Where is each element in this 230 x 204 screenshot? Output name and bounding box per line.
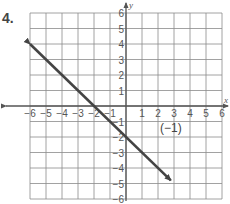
x-tick-label: 5 [203,108,209,119]
y-tick-label: 6 [118,8,124,19]
y-tick-label: 4 [118,39,124,50]
x-tick-label: 3 [171,108,177,119]
y-tick-label: −3 [113,148,125,159]
x-tick-label: 2 [155,108,161,119]
y-tick-label: 1 [118,86,124,97]
y-axis-label: y [128,0,133,10]
y-tick-label: −4 [113,163,125,174]
x-tick-label: 4 [187,108,193,119]
x-tick-label: 1 [139,108,145,119]
x-axis-label: x [223,95,228,105]
x-tick-label: −5 [40,108,52,119]
x-tick-label: −6 [24,108,36,119]
y-tick-label: −6 [113,194,125,204]
y-tick-label: 2 [118,70,124,81]
y-tick-label: 3 [118,55,124,66]
slope-annotation: (−1) [160,121,182,135]
x-tick-label: −4 [56,108,68,119]
coordinate-graph: −6−5−4−3−2−1123456654321−1−2−3−4−5−6 x y… [0,0,230,204]
x-tick-label: 6 [219,108,225,119]
y-tick-label: 5 [118,24,124,35]
x-tick-label: −3 [72,108,84,119]
y-tick-label: −5 [113,179,125,190]
